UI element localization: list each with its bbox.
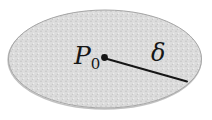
radius-label: δ bbox=[151, 39, 165, 67]
figure-canvas: P0 δ bbox=[0, 0, 212, 120]
center-point-label-main: P bbox=[73, 41, 92, 70]
center-point bbox=[101, 54, 108, 61]
center-point-label-sub: 0 bbox=[91, 55, 101, 73]
delta-disk-figure: P0 δ bbox=[0, 0, 212, 120]
